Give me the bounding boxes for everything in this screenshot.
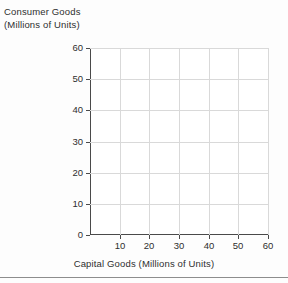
gridline-vertical — [209, 48, 210, 235]
y-axis-tick-label: 60 — [72, 43, 83, 53]
y-axis-title: Consumer Goods (Millions of Units) — [4, 5, 134, 31]
plot-area: 0102030405060102030405060 — [90, 48, 268, 235]
y-axis-tick — [86, 79, 90, 80]
x-axis-tick — [120, 235, 121, 239]
x-axis-tick — [179, 235, 180, 239]
x-axis-title: Capital Goods (Millions of Units) — [0, 258, 288, 269]
gridline-vertical — [238, 48, 239, 235]
x-axis-tick-label: 40 — [204, 241, 215, 251]
gridline-vertical — [120, 48, 121, 235]
y-axis-tick-label: 0 — [78, 230, 83, 240]
y-axis-tick-label: 20 — [72, 168, 83, 178]
x-axis-tick-label: 50 — [233, 241, 244, 251]
y-axis-title-line-1: Consumer Goods — [4, 5, 134, 18]
chart-figure: Consumer Goods (Millions of Units) 01020… — [0, 0, 288, 283]
y-axis-tick-label: 50 — [72, 74, 83, 84]
y-axis-tick — [86, 235, 90, 236]
y-axis-tick — [86, 48, 90, 49]
y-axis-title-line-2: (Millions of Units) — [4, 18, 134, 31]
y-axis-tick — [86, 142, 90, 143]
gridline-vertical — [268, 48, 269, 235]
y-axis-tick — [86, 110, 90, 111]
y-axis-tick — [86, 173, 90, 174]
gridline-vertical — [149, 48, 150, 235]
gridline-vertical — [179, 48, 180, 235]
x-axis-tick-label: 30 — [174, 241, 185, 251]
y-axis-tick-label: 10 — [72, 199, 83, 209]
x-axis-tick — [209, 235, 210, 239]
page-divider — [0, 277, 288, 278]
y-axis-tick — [86, 204, 90, 205]
x-axis-tick — [149, 235, 150, 239]
x-axis-tick-label: 60 — [263, 241, 274, 251]
x-axis-tick — [238, 235, 239, 239]
x-axis-tick-label: 10 — [115, 241, 126, 251]
x-axis-tick-label: 20 — [144, 241, 155, 251]
x-axis-tick — [268, 235, 269, 239]
y-axis-tick-label: 30 — [72, 137, 83, 147]
y-axis-tick-label: 40 — [72, 105, 83, 115]
